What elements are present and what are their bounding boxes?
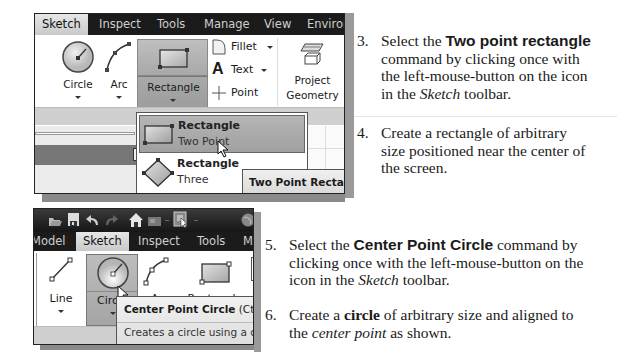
appearance-icon[interactable] — [148, 215, 162, 227]
step-text: Select the Two point rectangle command b… — [381, 32, 591, 102]
tab-inspect[interactable]: Inspect — [138, 232, 180, 251]
line-icon — [40, 253, 82, 293]
rectangle-label: Rectangle — [138, 81, 209, 93]
step-text: Select the Center Point Circle command b… — [289, 236, 583, 289]
three-point-rectangle-icon — [142, 158, 176, 188]
step-text-segment: Create a — [289, 306, 344, 323]
save-icon[interactable] — [68, 213, 80, 227]
instruction-step-6: 6. Create a circle of arbitrary size and… — [265, 306, 617, 342]
open-icon[interactable] — [48, 215, 62, 227]
tooltip-divider — [117, 322, 254, 323]
tab-model[interactable]: Model — [33, 232, 66, 251]
project-geometry-button[interactable]: Project Geometry — [279, 38, 345, 108]
tab-environments[interactable]: Environ — [307, 14, 345, 35]
step-text-segment: icon in the — [289, 271, 358, 288]
two-point-rectangle-icon — [143, 123, 177, 147]
step-number: 6. — [265, 306, 277, 324]
step-number: 4. — [357, 124, 369, 142]
keyword-italic: center point — [312, 324, 386, 341]
circle-button[interactable]: Circle — [55, 38, 101, 108]
tooltip-command-name: Center Point Circle — [124, 303, 235, 315]
tab-manage[interactable]: Ma — [243, 232, 254, 251]
chevron-down-icon — [261, 69, 267, 72]
chevron-down-icon — [116, 96, 122, 99]
text-a-icon: A — [212, 60, 224, 78]
tooltip-two-point-rectangle: Two Point Rectangle — [242, 169, 345, 194]
line-label: Line — [40, 292, 82, 305]
command-name-bold: Center Point Circle — [354, 236, 494, 253]
fillet-label: Fillet — [231, 40, 257, 53]
arc-label: Arc — [101, 78, 137, 90]
step-text-line: size positioned near the center of — [381, 142, 585, 160]
step-text-segment: toolbar. — [399, 271, 450, 288]
tab-sketch[interactable]: Sketch — [76, 232, 129, 251]
step-text-line: Create a rectangle of arbitrary — [381, 124, 585, 142]
panel-grip[interactable] — [35, 132, 135, 135]
step-text-segment: of arbitrary size and aligned to — [380, 306, 574, 323]
tab-view[interactable]: View — [264, 14, 291, 35]
step-number: 3. — [357, 32, 369, 50]
chevron-down-icon — [267, 46, 273, 49]
toolbar-name-italic: Sketch — [358, 271, 398, 288]
tab-manage[interactable]: Manage — [204, 14, 250, 35]
line-button[interactable]: Line — [40, 253, 82, 325]
rectangle-button[interactable] — [137, 39, 208, 76]
project-geometry-label-1: Project — [279, 73, 345, 88]
step-text-line: the screen. — [381, 159, 585, 177]
ribbon-tab-bar: Model Sketch Inspect Tools Ma — [34, 232, 253, 251]
rectangle-icon — [138, 40, 209, 77]
command-name-bold: Two point rectangle — [446, 32, 591, 49]
inventor-sketch-ribbon-screenshot: Sketch Inspect Tools Manage View Environ… — [34, 13, 345, 194]
separator-dash — [194, 220, 198, 221]
tab-inspect[interactable]: Inspect — [99, 14, 141, 35]
step-text-segment: the — [289, 324, 312, 341]
toolbar-name-italic: Sketch — [420, 85, 460, 102]
ribbon-tab-bar: Sketch Inspect Tools Manage View Environ — [35, 14, 344, 35]
menu-item-rectangle-two-point[interactable]: Rectangle Two Point — [139, 115, 305, 153]
screenshot-edge-shadow — [345, 13, 354, 198]
step-text: Create a circle of arbitrary size and al… — [289, 306, 574, 341]
tab-tools[interactable]: Tools — [197, 232, 225, 251]
separator-dash — [165, 220, 169, 221]
project-geometry-icon — [279, 38, 345, 68]
menu-item-title: Rectangle — [178, 119, 240, 132]
select-icon[interactable] — [174, 212, 188, 228]
step-number: 5. — [265, 236, 277, 254]
fillet-button[interactable]: Fillet — [211, 39, 279, 57]
keyword-bold: circle — [344, 306, 380, 323]
globe-icon[interactable] — [241, 213, 254, 227]
undo-icon[interactable] — [86, 215, 100, 227]
step-text-segment: command by — [493, 236, 577, 253]
chevron-down-icon — [170, 99, 176, 102]
rectangle-icon — [182, 253, 248, 293]
step-text-segment: toolbar. — [460, 85, 511, 102]
ribbon-edge — [36, 253, 37, 326]
instruction-step-4: 4. Create a rectangle of arbitrary size … — [357, 124, 617, 178]
menu-item-title: Rectangle — [177, 157, 239, 170]
inventor-circle-tooltip-screenshot: Model Sketch Inspect Tools Ma Line Circ — [33, 208, 254, 345]
arc-icon — [140, 253, 180, 293]
tooltip-center-point-circle: Center Point Circle (Ctrl+ Creates a cir… — [116, 296, 254, 345]
chevron-down-icon — [75, 96, 81, 99]
step-text-line: clicking once with the left-mouse-button… — [289, 254, 583, 272]
tab-sketch[interactable]: Sketch — [35, 14, 88, 35]
redo-icon[interactable] — [104, 215, 118, 227]
tab-tools[interactable]: Tools — [157, 14, 185, 35]
step-text: Create a rectangle of arbitrary size pos… — [381, 124, 585, 177]
arc-button[interactable]: Arc — [101, 38, 137, 108]
home-icon[interactable] — [129, 213, 143, 227]
chevron-down-icon — [58, 310, 64, 313]
text-label: Text — [231, 63, 253, 76]
step-text-line: the left-mouse-button on the icon — [381, 67, 591, 85]
fillet-icon — [211, 39, 227, 55]
menu-item-subtitle: Three — [177, 173, 209, 186]
point-button[interactable]: Point — [211, 85, 279, 103]
step-text-segment: Select the — [289, 236, 354, 253]
instruction-step-5: 5. Select the Center Point Circle comman… — [265, 236, 617, 290]
instruction-step-3: 3. Select the Two point rectangle comman… — [357, 32, 617, 104]
step-text-segment: in the — [381, 85, 420, 102]
step-text-segment: Select the — [381, 32, 446, 49]
text-button[interactable]: A Text — [211, 62, 279, 80]
step-text-line: command by clicking once with — [381, 50, 591, 68]
tooltip-title: Center Point Circle (Ctrl+ — [124, 303, 254, 315]
